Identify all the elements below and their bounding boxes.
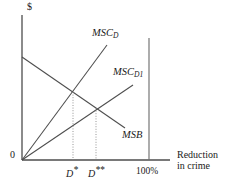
x-tick-label-d-star-star-marks: ** xyxy=(95,165,104,175)
x-tick-label-d-star: D* xyxy=(66,166,78,179)
x-tick-label-d-star-star: D** xyxy=(88,166,104,179)
curve-label-msc-d1-base: MSC xyxy=(113,66,134,77)
x-axis-title-line2: in crime xyxy=(177,161,218,172)
curve-label-msc-d-subscript: D xyxy=(113,31,118,40)
x-tick-label-100-percent: 100% xyxy=(136,167,158,177)
crime-reduction-diagram: $ 0 MSCD MSCD1 MSB D* D** 100% Reduction… xyxy=(0,0,248,194)
x-tick-label-d-star-marks: * xyxy=(73,165,78,175)
curve-msc-d xyxy=(22,45,107,160)
curve-label-msc-d1: MSCD1 xyxy=(113,66,143,79)
curve-label-msb: MSB xyxy=(122,129,142,140)
curve-label-msc-d: MSCD xyxy=(92,27,118,40)
curve-label-msc-d1-subscript: D1 xyxy=(134,70,143,79)
curve-msb xyxy=(22,57,125,128)
x-axis-title: Reductionin crime xyxy=(177,150,218,171)
curve-label-msc-d-base: MSC xyxy=(92,27,113,38)
x-axis-title-line1: Reduction xyxy=(177,149,218,160)
origin-label: 0 xyxy=(10,150,15,161)
y-axis-label: $ xyxy=(27,2,32,13)
